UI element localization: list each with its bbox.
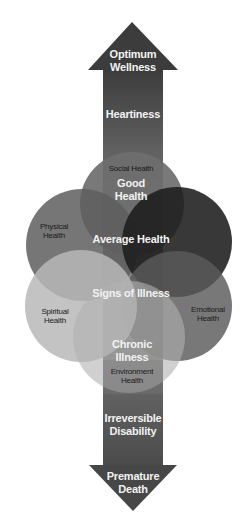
physical-health-label: Physical Health <box>40 222 68 240</box>
spiritual-health-label: Spiritual Health <box>41 307 68 325</box>
social-health-label: Social Health <box>109 164 154 173</box>
stage-chronic-illness-label: Chronic Illness <box>112 338 152 363</box>
stage-good-health-label: Good Health <box>115 177 147 202</box>
stage-average-health-label: Average Health <box>93 233 170 246</box>
wellness-continuum-diagram: Optimum Wellness Premature Death Heartin… <box>0 0 246 529</box>
premature-death-label: Premature Death <box>107 470 160 495</box>
stage-heartiness-label: Heartiness <box>106 108 160 121</box>
intellectual-health-label: Intellectual Health <box>190 223 226 241</box>
diagram-graphics <box>0 0 246 529</box>
optimum-wellness-label: Optimum Wellness <box>110 48 157 73</box>
stage-signs-of-illness-label: Signs of Illness <box>92 287 170 300</box>
emotional-health-label: Emotional Health <box>191 305 225 323</box>
environment-health-label: Environment Health <box>111 367 154 385</box>
stage-irreversible-disability-label: Irreversible Disability <box>105 412 162 437</box>
